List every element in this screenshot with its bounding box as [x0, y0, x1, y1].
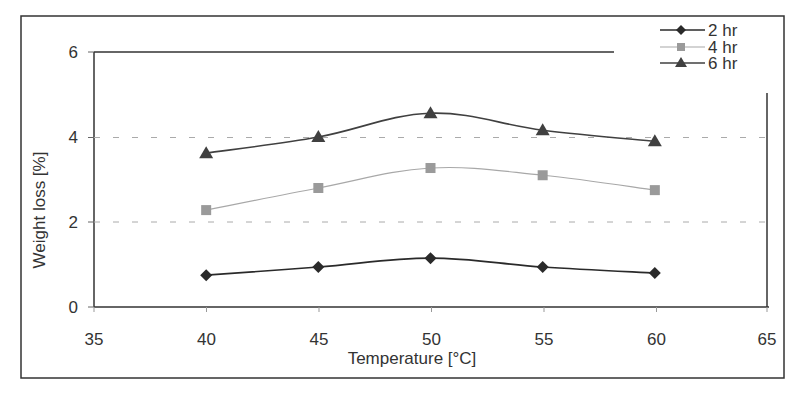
series-4hr	[201, 163, 660, 215]
legend-item-6hr: 6 hr	[660, 54, 738, 73]
weight-loss-chart: 0 2 4 6 35 40 45 50 55 60 65 Temperature…	[0, 0, 800, 399]
diamond-marker-icon	[425, 252, 437, 264]
diamond-marker-icon	[312, 261, 324, 273]
x-tick-label: 50	[422, 330, 441, 349]
chart-frame	[21, 16, 784, 378]
y-tick-label: 6	[69, 43, 78, 62]
legend: 2 hr 4 hr 6 hr	[660, 21, 738, 73]
diamond-marker-icon	[200, 269, 212, 281]
triangle-marker-icon	[424, 106, 438, 118]
plot-area	[94, 52, 769, 307]
square-marker-icon	[426, 163, 436, 173]
x-tick-label: 45	[310, 330, 329, 349]
legend-label: 6 hr	[708, 54, 738, 73]
square-marker-icon	[201, 205, 211, 215]
y-axis-title: Weight loss [%]	[30, 152, 49, 269]
x-tick-label: 40	[197, 330, 216, 349]
series-6hr	[199, 106, 662, 158]
x-tick-label: 65	[758, 330, 777, 349]
x-tick-label: 55	[535, 330, 554, 349]
square-marker-icon	[538, 170, 548, 180]
y-tick-label: 2	[69, 213, 78, 232]
diamond-marker-icon	[676, 25, 686, 35]
x-tick-label: 35	[85, 330, 104, 349]
x-tick-label: 60	[647, 330, 666, 349]
series-layer	[199, 106, 662, 281]
y-tick-label: 0	[69, 298, 78, 317]
x-axis-ticks: 35 40 45 50 55 60 65	[85, 307, 777, 349]
triangle-marker-icon	[675, 57, 687, 67]
square-marker-icon	[677, 43, 685, 51]
y-tick-label: 4	[69, 128, 78, 147]
square-marker-icon	[313, 183, 323, 193]
gridlines	[94, 138, 767, 223]
diamond-marker-icon	[537, 261, 549, 273]
series-line	[206, 167, 655, 210]
square-marker-icon	[650, 185, 660, 195]
x-axis-title: Temperature [°C]	[348, 349, 477, 368]
y-axis-ticks: 0 2 4 6	[69, 43, 94, 317]
series-line	[206, 113, 655, 153]
diamond-marker-icon	[649, 267, 661, 279]
series-2hr	[200, 252, 661, 281]
